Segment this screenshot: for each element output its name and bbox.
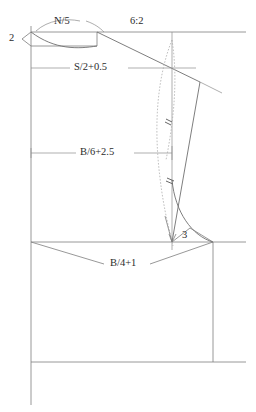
neck-drop-label: 2 (9, 33, 14, 44)
armhole-straight-segment (172, 82, 200, 242)
chest-width-leader-right (150, 242, 213, 264)
shoulder-slope-extension (200, 82, 222, 93)
underarm-wedge-lower (190, 228, 213, 242)
armhole-construction-curve (157, 40, 173, 246)
armhole-construction-curve-inner (166, 40, 175, 160)
pattern-drawing-canvas: N/5 6:2 2 S/2+0.5 B/6+2.5 3 B/4+1 (0, 0, 256, 412)
neckline-curve (31, 32, 97, 48)
shoulder-slope-line (97, 32, 200, 82)
neck-width-leader-right (86, 21, 104, 32)
armhole-scoop-curve (172, 180, 213, 242)
underarm-notch-label: 3 (182, 230, 187, 241)
armhole-notch-upper-b (165, 122, 171, 125)
shoulder-slope-ratio-label: 6:2 (130, 16, 143, 27)
armhole-notch-upper (166, 119, 172, 122)
pattern-line-art (0, 0, 256, 412)
neck-drop-leader-lower (22, 39, 31, 46)
underarm-wedge-upper (172, 228, 190, 242)
neck-drop-leader-upper (22, 32, 31, 39)
armhole-depth-label: B/6+2.5 (80, 147, 114, 158)
shoulder-width-label: S/2+0.5 (74, 62, 107, 73)
neck-width-label: N/5 (54, 16, 70, 27)
chest-width-leader-left (31, 242, 104, 264)
chest-width-label: B/4+1 (110, 258, 136, 269)
armhole-notch-lower (167, 178, 174, 181)
